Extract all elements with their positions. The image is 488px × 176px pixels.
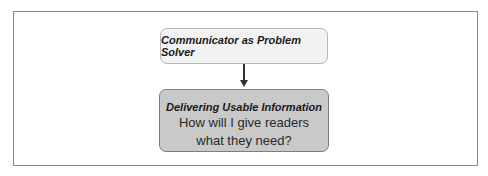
node-question-line1: How will I give readers — [160, 115, 328, 131]
node-label: Communicator as Problem Solver — [161, 34, 327, 58]
node-question-line2: what they need? — [160, 133, 328, 149]
node-delivering-usable-information: Delivering Usable Information How will I… — [159, 89, 329, 152]
connector-arrow-line — [243, 64, 245, 81]
arrow-down-icon — [240, 80, 248, 87]
node-title: Delivering Usable Information — [160, 101, 328, 113]
node-communicator-as-problem-solver: Communicator as Problem Solver — [160, 28, 328, 64]
